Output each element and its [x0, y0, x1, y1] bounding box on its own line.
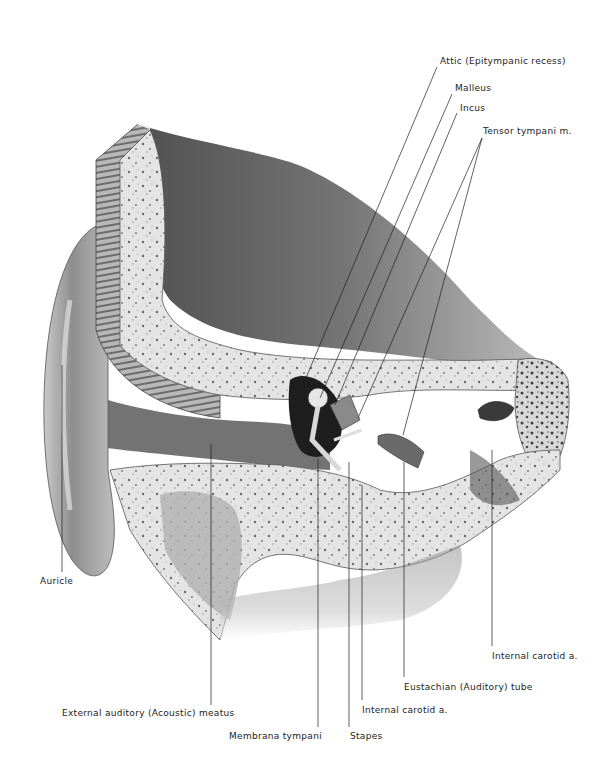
- label-internal-carotid-lower: Internal carotid a.: [362, 706, 448, 715]
- label-auricle: Auricle: [40, 577, 73, 586]
- label-tensor-tympani: Tensor tympani m.: [483, 127, 572, 136]
- cranial-cavity: [150, 128, 540, 372]
- label-malleus: Malleus: [455, 84, 491, 93]
- carotid-canal-opening: [478, 402, 514, 421]
- label-external-auditory-meatus: External auditory (Acoustic) meatus: [62, 709, 235, 718]
- label-incus: Incus: [460, 104, 485, 113]
- label-stapes: Stapes: [350, 732, 383, 741]
- ear-section-illustration: [0, 0, 609, 783]
- label-attic: Attic (Epitympanic recess): [440, 57, 566, 66]
- label-internal-carotid-upper: Internal carotid a.: [492, 652, 578, 661]
- eustachian-opening: [378, 434, 424, 468]
- label-membrana-tympani: Membrana tympani: [229, 732, 322, 741]
- label-eustachian-tube: Eustachian (Auditory) tube: [404, 683, 533, 692]
